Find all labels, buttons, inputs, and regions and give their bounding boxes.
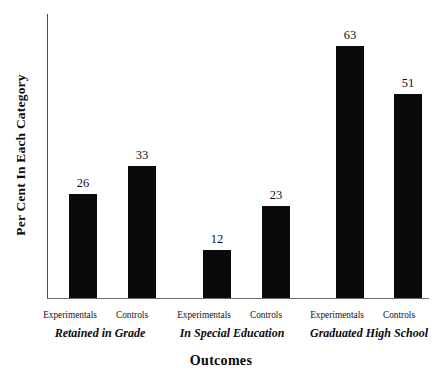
bar-value-label: 23 xyxy=(270,189,283,202)
bar-value-label: 63 xyxy=(344,29,357,42)
bar-graduated-high-school-controls xyxy=(394,94,422,298)
bar-group-graduated-high-school-experimentals: 63 xyxy=(336,46,364,298)
group-label-in-special-education: In Special Education xyxy=(171,326,293,341)
y-axis-title-text: Per Cent In Each Category xyxy=(13,74,29,235)
bar-value-label: 51 xyxy=(402,77,415,90)
bar-group-retained-in-grade-controls: 33 xyxy=(128,166,156,298)
series-label-row: Experimentals Controls Experimentals Con… xyxy=(0,309,442,325)
bar-group-retained-in-grade-experimentals: 26 xyxy=(69,194,97,298)
series-label-experimentals-3: Experimentals xyxy=(302,309,372,322)
group-label-graduated-high-school: Graduated High School xyxy=(305,326,433,341)
x-axis-title: Outcomes xyxy=(0,352,442,370)
series-label-controls-1: Controls xyxy=(104,309,160,322)
bar-in-special-education-controls xyxy=(262,206,290,298)
series-label-experimentals-1: Experimentals xyxy=(35,309,105,322)
bar-group-in-special-education-experimentals: 12 xyxy=(203,250,231,298)
bar-value-label: 33 xyxy=(136,149,149,162)
bar-value-label: 26 xyxy=(77,177,90,190)
bar-group-graduated-high-school-controls: 51 xyxy=(394,94,422,298)
bar-graduated-high-school-experimentals xyxy=(336,46,364,298)
bar-retained-in-grade-controls xyxy=(128,166,156,298)
bar-chart: Per Cent In Each Category 26 33 12 23 63 xyxy=(0,0,442,383)
plot-area: 26 33 12 23 63 51 xyxy=(48,14,429,298)
bar-retained-in-grade-experimentals xyxy=(69,194,97,298)
series-label-experimentals-2: Experimentals xyxy=(169,309,239,322)
group-label-retained-in-grade: Retained in Grade xyxy=(40,326,160,341)
group-label-row: Retained in Grade In Special Education G… xyxy=(0,326,442,344)
y-axis-title: Per Cent In Each Category xyxy=(0,0,42,310)
bar-in-special-education-experimentals xyxy=(203,250,231,298)
bar-group-in-special-education-controls: 23 xyxy=(262,206,290,298)
bar-value-label: 12 xyxy=(211,233,224,246)
series-label-controls-2: Controls xyxy=(238,309,294,322)
series-label-controls-3: Controls xyxy=(371,309,427,322)
